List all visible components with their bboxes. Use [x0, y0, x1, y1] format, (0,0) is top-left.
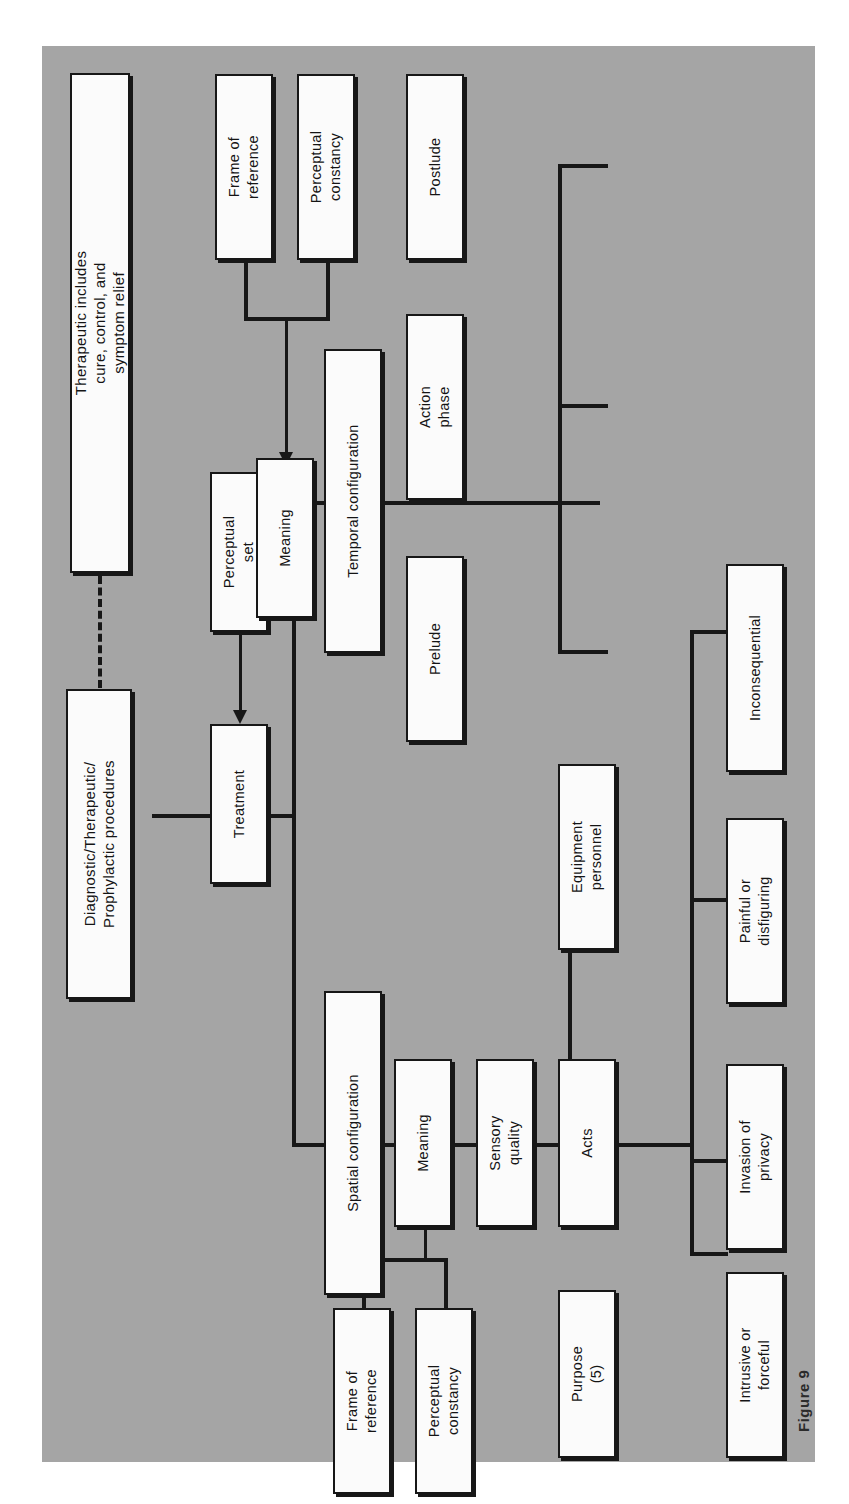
node-perceptual-constancy-bottom[interactable]: Perceptual constancy [415, 1308, 473, 1494]
node-meaning-bottom[interactable]: Meaning [394, 1059, 452, 1227]
connector-distributor-to-invasion-privacy [690, 1159, 728, 1163]
connector-spine-to-spatial-configuration [292, 1143, 324, 1147]
connector-top-pair-to-meaning [285, 317, 288, 459]
node-frame-of-reference-bottom[interactable]: Frame of reference [333, 1308, 391, 1494]
connector-acts-to-outcome-distributor [650, 1143, 694, 1147]
connector-perceptual-set-to-treatment [239, 632, 242, 714]
node-temporal-configuration-label: Temporal configuration [344, 424, 363, 577]
connector-perceptual-constancy-bottom-down [444, 1262, 448, 1310]
node-perceptual-constancy-bottom-label: Perceptual constancy [425, 1365, 462, 1437]
node-frame-of-reference-top-label: Frame of reference [225, 135, 262, 199]
connector-distributor-to-intrusive-forceful [690, 1252, 728, 1256]
node-inconsequential[interactable]: Inconsequential [726, 564, 784, 772]
node-purpose-label: Purpose (5) [568, 1346, 605, 1402]
node-postlude[interactable]: Postlude [406, 74, 464, 260]
node-intrusive-or-forceful[interactable]: Intrusive or forceful [726, 1272, 784, 1458]
node-equipment-personnel-label: Equipment personnel [568, 821, 605, 893]
node-procedures[interactable]: Diagnostic/Therapeutic/ Prophylactic pro… [66, 689, 132, 999]
node-invasion-of-privacy-label: Invasion of privacy [736, 1120, 773, 1193]
node-inconsequential-label: Inconsequential [746, 615, 765, 721]
figure-caption: Figure 9 [795, 1312, 817, 1432]
arrow-perceptual-set-to-treatment [233, 710, 247, 724]
node-intrusive-or-forceful-label: Intrusive or forceful [736, 1327, 773, 1402]
node-temporal-configuration[interactable]: Temporal configuration [324, 349, 382, 653]
node-purpose-box[interactable]: Purpose (5) [558, 1290, 616, 1458]
node-perceptual-set-label: Perceptual set [220, 516, 257, 588]
connector-distributor-to-action-phase [558, 404, 608, 408]
node-treatment[interactable]: Treatment [210, 724, 268, 884]
node-frame-of-reference-bottom-label: Frame of reference [343, 1369, 380, 1433]
node-acts[interactable]: Acts [558, 1059, 616, 1227]
connector-therapeutic-note-dashed [98, 576, 102, 688]
node-prelude-label: Prelude [426, 623, 445, 675]
connector-phase-distributor [558, 164, 562, 654]
node-meaning-top-label: Meaning [276, 509, 295, 567]
node-meaning-bottom-label: Meaning [414, 1114, 433, 1172]
node-procedures-label: Diagnostic/Therapeutic/ Prophylactic pro… [80, 760, 118, 928]
node-perceptual-constancy-top-label: Perceptual constancy [307, 131, 344, 203]
node-meaning-top[interactable]: Meaning [256, 458, 314, 618]
node-action-phase-label: Action phase [416, 386, 453, 428]
node-spatial-configuration-label: Spatial configuration [344, 1074, 363, 1212]
node-perceptual-constancy-top[interactable]: Perceptual constancy [297, 74, 355, 260]
connector-temporal-row [364, 501, 600, 505]
connector-distributor-to-inconsequential [690, 630, 728, 634]
node-treatment-label: Treatment [230, 770, 249, 838]
node-sensory-quality-label: Sensory quality [486, 1115, 523, 1170]
node-therapeutic-note[interactable]: Therapeutic includes cure, control, and … [70, 73, 130, 573]
node-action-phase[interactable]: Action phase [406, 314, 464, 500]
node-painful-or-disfiguring-label: Painful or disfiguring [736, 876, 773, 945]
node-acts-label: Acts [578, 1128, 597, 1157]
node-postlude-label: Postlude [426, 138, 445, 197]
connector-perceptual-constancy-top-down [326, 257, 330, 321]
node-prelude[interactable]: Prelude [406, 556, 464, 742]
connector-procedures-to-treatment [152, 814, 212, 818]
node-spatial-configuration[interactable]: Spatial configuration [324, 991, 382, 1295]
connector-distributor-to-painful-disfiguring [690, 898, 728, 902]
connector-distributor-to-postlude [558, 164, 608, 168]
diagram-plate: Therapeutic includes cure, control, and … [42, 46, 815, 1462]
node-sensory-quality[interactable]: Sensory quality [476, 1059, 534, 1227]
node-invasion-of-privacy[interactable]: Invasion of privacy [726, 1064, 784, 1250]
connector-frame-reference-top-down [244, 257, 248, 321]
node-equipment-personnel[interactable]: Equipment personnel [558, 764, 616, 950]
node-painful-or-disfiguring[interactable]: Painful or disfiguring [726, 818, 784, 1004]
connector-distributor-to-prelude [558, 650, 608, 654]
node-frame-of-reference-top[interactable]: Frame of reference [215, 74, 273, 260]
node-therapeutic-note-label: Therapeutic includes cure, control, and … [71, 251, 129, 395]
